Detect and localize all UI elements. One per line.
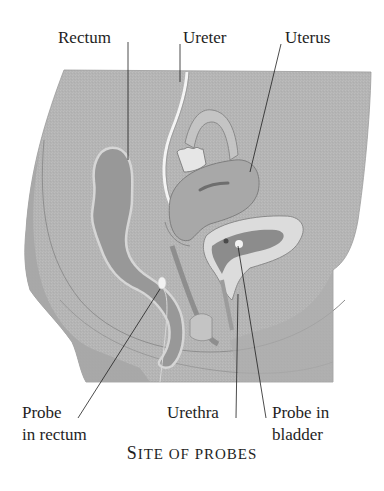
figure-caption: SITE OF PROBES bbox=[0, 443, 384, 464]
caption-initial: S bbox=[127, 443, 138, 463]
label-urethra: Urethra bbox=[167, 402, 219, 424]
caption-word-1: ITE bbox=[138, 446, 164, 462]
label-probe-rectum-line1: Probe bbox=[22, 402, 62, 424]
label-probe-bladder-line1: Probe in bbox=[272, 402, 329, 424]
caption-rest: OF PROBES bbox=[169, 446, 258, 462]
label-ureter: Ureter bbox=[183, 27, 226, 49]
label-rectum: Rectum bbox=[58, 27, 111, 49]
label-uterus: Uterus bbox=[285, 27, 330, 49]
